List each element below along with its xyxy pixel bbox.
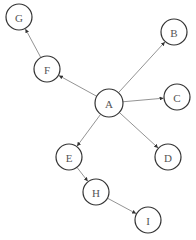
edge-a-c bbox=[123, 98, 164, 102]
node-label: G bbox=[15, 12, 23, 24]
node-i: I bbox=[135, 207, 161, 233]
node-label: F bbox=[44, 64, 50, 76]
node-f: F bbox=[34, 56, 60, 82]
edge-a-f bbox=[59, 75, 97, 96]
edge-h-i bbox=[107, 198, 136, 213]
node-label: I bbox=[146, 215, 150, 227]
node-d: D bbox=[155, 144, 181, 170]
edge-a-b bbox=[118, 42, 164, 93]
node-e: E bbox=[56, 144, 82, 170]
node-label: D bbox=[164, 152, 172, 164]
node-b: B bbox=[161, 19, 187, 45]
directed-graph: ABCDEFGHI bbox=[0, 0, 196, 240]
node-g: G bbox=[6, 4, 32, 30]
edge-f-g bbox=[25, 29, 40, 58]
node-label: B bbox=[170, 27, 177, 39]
node-c: C bbox=[164, 84, 190, 110]
node-a: A bbox=[95, 89, 123, 117]
edge-a-e bbox=[77, 114, 101, 146]
node-label: C bbox=[173, 92, 180, 104]
node-h: H bbox=[83, 179, 109, 205]
node-label: A bbox=[105, 98, 113, 110]
node-label: E bbox=[66, 152, 73, 164]
node-label: H bbox=[92, 187, 100, 199]
edge-e-h bbox=[77, 167, 88, 181]
edge-a-d bbox=[119, 112, 158, 147]
